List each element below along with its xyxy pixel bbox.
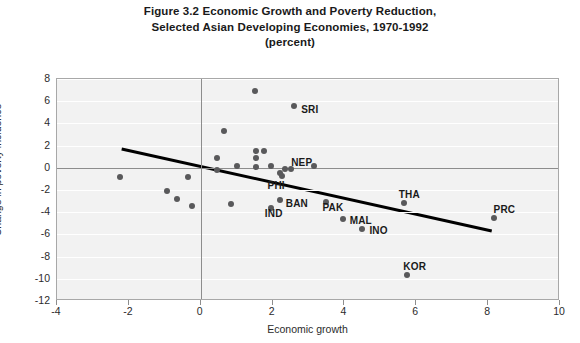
x-axis-tick-mark [272, 300, 273, 305]
data-point [288, 166, 294, 172]
x-axis-tick-mark [56, 300, 57, 305]
x-axis-tick-mark [128, 300, 129, 305]
gridline-horizontal [57, 146, 558, 147]
gridline-horizontal [57, 190, 558, 191]
point-label-prc: PRC [494, 204, 516, 215]
data-point-mal [340, 216, 346, 222]
y-axis-tick-label: 8 [0, 72, 50, 84]
x-axis-tick-mark [200, 300, 201, 305]
gridline-horizontal [57, 123, 558, 124]
data-point [234, 163, 240, 169]
gridline-horizontal [57, 101, 558, 102]
y-axis-tick-label: -4 [0, 205, 50, 217]
x-axis-tick-label: -2 [108, 305, 148, 317]
y-axis-tick-label: -2 [0, 183, 50, 195]
plot-wrapper: SRINEPPHIINDBANPAKMALINOTHAKORPRC Change… [0, 0, 580, 343]
scatter-plot-area: SRINEPPHIINDBANPAKMALINOTHAKORPRC [56, 78, 559, 300]
y-axis-tick-label: 0 [0, 161, 50, 173]
y-axis-tick-label: 6 [0, 94, 50, 106]
figure-container: Figure 3.2 Economic Growth and Poverty R… [0, 0, 580, 343]
y-axis-tick-label: 2 [0, 139, 50, 151]
data-point [185, 174, 191, 180]
gridline-horizontal [57, 79, 558, 80]
x-axis-tick-mark [559, 300, 560, 305]
data-point-prc [491, 215, 497, 221]
point-label-ino: INO [369, 225, 387, 236]
point-label-ind: IND [265, 208, 283, 219]
data-point [268, 163, 274, 169]
x-axis-tick-label: -4 [36, 305, 76, 317]
x-axis-tick-label: 4 [323, 305, 363, 317]
y-axis-tick-label: -10 [0, 272, 50, 284]
x-axis-tick-label: 10 [539, 305, 579, 317]
data-point [214, 167, 220, 173]
data-point [277, 170, 283, 176]
data-point [311, 163, 317, 169]
x-axis-label: Economic growth [56, 323, 559, 335]
data-point [252, 88, 258, 94]
data-point [164, 188, 170, 194]
point-label-tha: THA [399, 189, 420, 200]
y-axis-tick-label: -8 [0, 250, 50, 262]
x-axis-tick-label: 6 [395, 305, 435, 317]
gridline-horizontal [57, 234, 558, 235]
gridline-horizontal [57, 212, 558, 213]
axis-zero-horizontal [57, 168, 558, 169]
x-axis-tick-label: 0 [180, 305, 220, 317]
point-label-phi: PHI [268, 180, 285, 191]
point-label-kor: KOR [403, 261, 426, 272]
x-axis-tick-mark [415, 300, 416, 305]
data-point [261, 148, 267, 154]
axis-zero-vertical [201, 79, 202, 299]
x-axis-tick-label: 2 [252, 305, 292, 317]
gridline-horizontal [57, 301, 558, 302]
gridline-horizontal [57, 279, 558, 280]
y-axis-tick-label: -6 [0, 227, 50, 239]
data-point-ban [277, 197, 283, 203]
data-point [117, 174, 123, 180]
x-axis-tick-label: 8 [467, 305, 507, 317]
gridline-horizontal [57, 257, 558, 258]
data-point [189, 203, 195, 209]
x-axis-tick-mark [487, 300, 488, 305]
point-label-sri: SRI [301, 104, 318, 115]
y-axis-tick-label: 4 [0, 116, 50, 128]
data-point-sri [291, 103, 297, 109]
point-label-ban: BAN [286, 198, 308, 209]
point-label-nep: NEP [291, 157, 312, 168]
point-label-pak: PAK [322, 202, 343, 213]
x-axis-tick-mark [343, 300, 344, 305]
